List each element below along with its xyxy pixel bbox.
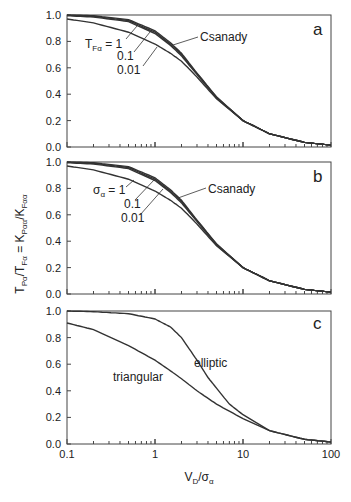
y-tick-label: 0.6 (46, 209, 61, 221)
ann-0.01: 0.01 (117, 63, 141, 77)
y-tick-label: 1.0 (46, 305, 61, 317)
y-tick-label: 0.8 (46, 35, 61, 47)
y-tick-label: 0.4 (46, 235, 61, 247)
y-tick-label: 0.2 (46, 115, 61, 127)
y-tick-label: 0.0 (46, 141, 61, 153)
panel-c-label: c (313, 314, 322, 333)
y-tick-label: 0.2 (46, 411, 61, 423)
ann-0.1: 0.1 (117, 49, 134, 63)
y-tick-label: 0.8 (46, 182, 61, 194)
y-tick-label: 0.4 (46, 385, 61, 397)
ann-triangular: triangular (113, 370, 163, 384)
y-tick-label: 0.2 (46, 262, 61, 274)
ann-elliptic: elliptic (194, 356, 227, 370)
panel-a: 0.00.20.40.60.81.0 (46, 9, 331, 153)
x-tick-label: 1 (152, 448, 158, 460)
y-tick-label: 0.6 (46, 358, 61, 370)
y-axis-label: TPα/TFα = KPαα/KFαα (13, 194, 29, 294)
y-tick-label: 1.0 (46, 9, 61, 21)
figure: 0.00.20.40.60.81.00.00.20.40.60.81.00.00… (0, 0, 351, 502)
panels: 0.00.20.40.60.81.00.00.20.40.60.81.00.00… (46, 9, 340, 460)
svg-text:σα = 1: σα = 1 (93, 183, 126, 199)
panel-a-label: a (313, 20, 323, 39)
y-tick-label: 0.6 (46, 62, 61, 74)
curve-elliptic (67, 311, 331, 442)
x-axis-label: VD/σα (184, 470, 214, 486)
x-tick-label: 100 (322, 448, 340, 460)
y-tick-label: 0.0 (46, 288, 61, 300)
panel-c: 0.00.20.40.60.81.00.1110100 (46, 305, 340, 460)
y-tick-label: 0.4 (46, 88, 61, 100)
ann-0.1: 0.1 (124, 197, 141, 211)
x-tick-label: 0.1 (59, 448, 74, 460)
y-tick-label: 0.8 (46, 332, 61, 344)
panel-b-label: b (313, 167, 322, 186)
panel-b: 0.00.20.40.60.81.0 (46, 156, 331, 300)
ann-csanady: Csanady (208, 182, 255, 196)
ann-0.01: 0.01 (121, 211, 145, 225)
panel-b-annotations: σα = 1 0.1 0.01 Csanady (93, 179, 255, 225)
x-tick-label: 10 (237, 448, 249, 460)
ann-csanady: Csanady (200, 30, 247, 44)
y-tick-label: 1.0 (46, 156, 61, 168)
curve-triangular (67, 323, 331, 442)
svg-text:TPα/TFα = KPαα/KFαα: TPα/TFα = KPαα/KFαα (13, 194, 29, 294)
